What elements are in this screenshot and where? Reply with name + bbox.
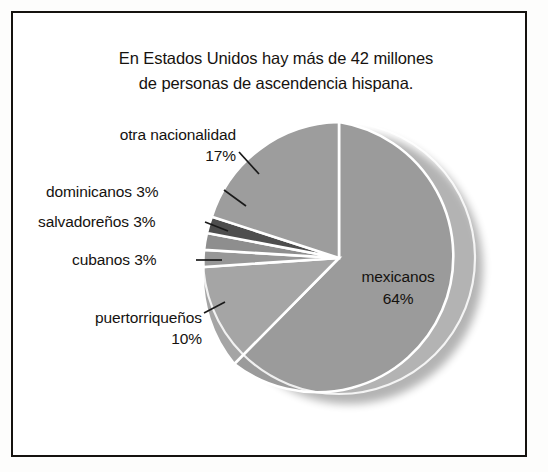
slice-label-otra-nacionalidad-value: 17% bbox=[70, 145, 236, 166]
slice-label-mexicanos-value: 64% bbox=[338, 288, 458, 310]
slice-label-mexicanos: mexicanos 64% bbox=[338, 266, 458, 310]
slice-label-dominicanos-name: dominicanos bbox=[46, 183, 132, 200]
slice-label-otra-nacionalidad-name: otra nacionalidad bbox=[70, 124, 236, 145]
slice-label-dominicanos-value: 3% bbox=[136, 183, 158, 200]
slice-label-salvadorenos-value: 3% bbox=[133, 213, 155, 230]
slice-label-salvadorenos: salvadoreños 3% bbox=[38, 211, 155, 232]
slice-label-cubanos-name: cubanos bbox=[72, 251, 130, 268]
page-root: En Estados Unidos hay más de 42 millones… bbox=[0, 0, 548, 472]
slice-label-puertorriquenos: puertorriqueños 10% bbox=[44, 307, 202, 349]
slice-label-puertorriquenos-value: 10% bbox=[44, 328, 202, 349]
slice-label-cubanos: cubanos 3% bbox=[72, 249, 156, 270]
slice-label-mexicanos-name: mexicanos bbox=[338, 266, 458, 288]
slice-label-otra-nacionalidad: otra nacionalidad 17% bbox=[70, 124, 236, 166]
slice-label-puertorriquenos-name: puertorriqueños bbox=[44, 307, 202, 328]
slice-label-cubanos-value: 3% bbox=[134, 251, 156, 268]
slice-label-dominicanos: dominicanos 3% bbox=[46, 181, 158, 202]
slice-label-salvadorenos-name: salvadoreños bbox=[38, 213, 129, 230]
chart-title-line-2: de personas de ascendencia hispana. bbox=[60, 71, 492, 96]
chart-title: En Estados Unidos hay más de 42 millones… bbox=[60, 46, 492, 96]
chart-title-line-1: En Estados Unidos hay más de 42 millones bbox=[60, 46, 492, 71]
